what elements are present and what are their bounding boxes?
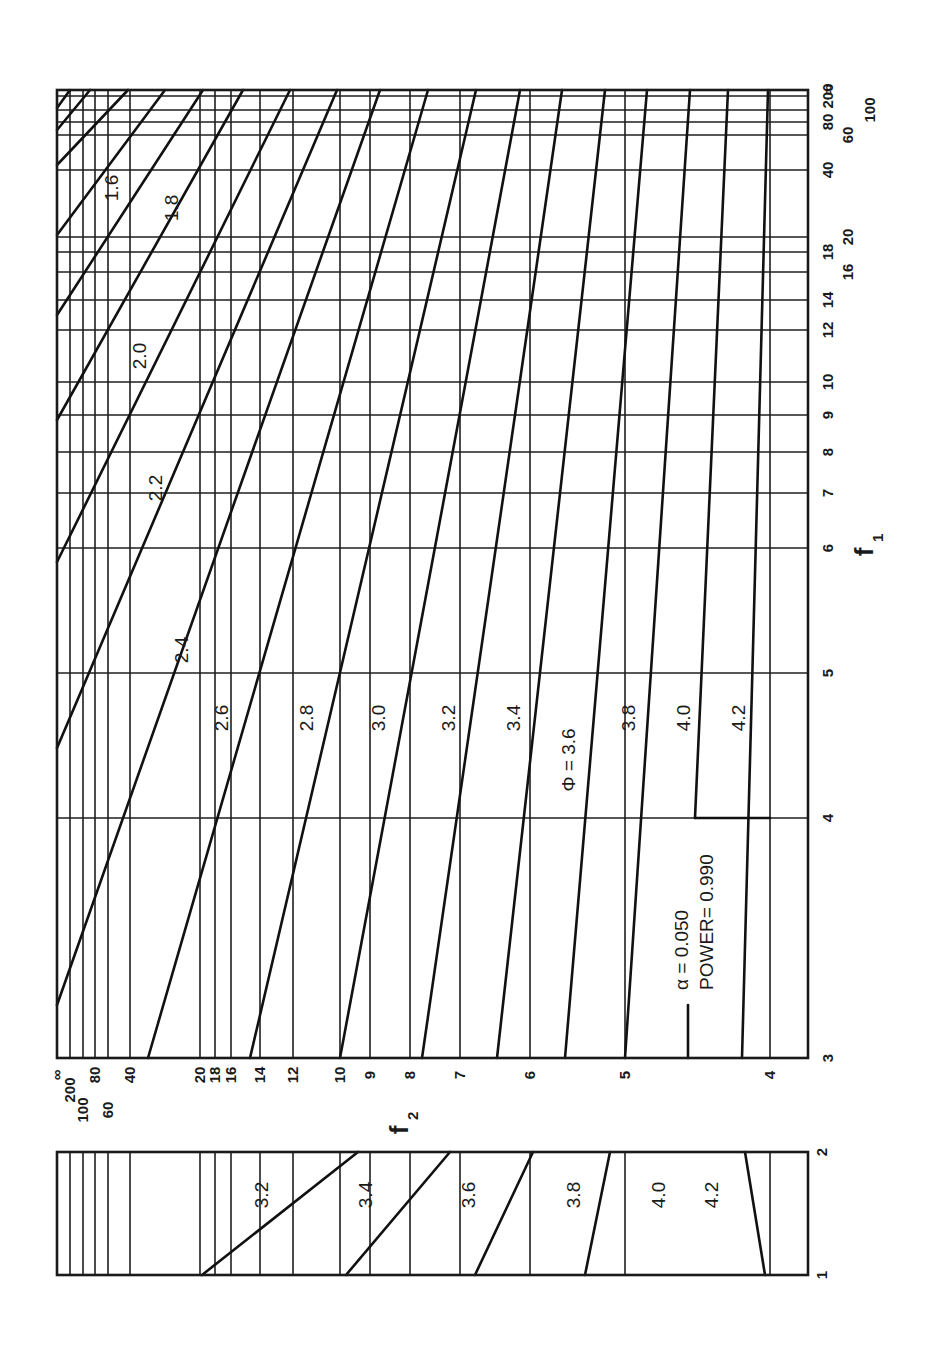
svg-text:2.0: 2.0 [129,343,150,369]
svg-text:f: f [849,547,879,556]
svg-text:4.0: 4.0 [648,1182,669,1208]
curve-label: 3.0 [368,705,389,731]
f1-tick-label: 16 [839,264,856,281]
f1-tick-label: 18 [819,244,836,261]
inset-curve-label: 3.8 [563,1182,584,1208]
f1-tick-label: 5 [819,669,836,677]
svg-text:1: 1 [869,534,886,542]
svg-text:3: 3 [819,1054,836,1062]
svg-text:3.4: 3.4 [355,1181,376,1208]
f1-tick-label: 60 [839,127,856,144]
f2-tick-label: 14 [251,1066,268,1083]
svg-text:α = 0.050: α = 0.050 [671,910,692,990]
curve-label: 2.4 [171,636,192,663]
f2-tick-label: 5 [616,1071,633,1079]
svg-text:4.2: 4.2 [701,1182,722,1208]
main-curve-2.6 [57,90,337,748]
svg-text:8: 8 [819,448,836,456]
svg-text:2.8: 2.8 [296,705,317,731]
svg-text:18: 18 [206,1067,223,1084]
curve-label: 2.0 [129,343,150,369]
svg-text:f: f [384,1125,414,1134]
f1-tick-label: 9 [819,411,836,419]
main-curve-2.4 [57,90,290,562]
svg-text:2: 2 [404,1112,421,1120]
svg-text:3.2: 3.2 [251,1182,272,1208]
svg-text:2: 2 [813,1148,830,1156]
svg-text:3.8: 3.8 [563,1182,584,1208]
curve-label: Φ = 3.6 [558,728,579,791]
svg-text:16: 16 [839,264,856,281]
main-curve-4.4 [695,90,728,818]
svg-text:40: 40 [819,162,836,179]
inset-curve-label: 4.2 [701,1182,722,1208]
svg-text:60: 60 [839,127,856,144]
svg-text:7: 7 [451,1071,468,1079]
svg-text:9: 9 [361,1071,378,1079]
svg-text:Φ = 3.6: Φ = 3.6 [558,728,579,791]
inset-curve-3.2 [202,1152,358,1275]
svg-text:4.2: 4.2 [728,705,749,731]
inset-curve-3.4 [346,1152,450,1275]
phi-curves [57,90,770,1275]
svg-text:2.4: 2.4 [171,636,192,663]
curve-label: 3.4 [503,704,524,731]
f2-tick-label: 8 [401,1071,418,1079]
svg-text:20: 20 [839,229,856,246]
svg-text:7: 7 [819,489,836,497]
inset-curve-label: 3.2 [251,1182,272,1208]
curve-label: 2.8 [296,705,317,731]
curve-label: 1.6 [101,175,122,201]
f2-tick-label: 80 [86,1067,103,1084]
f2-tick-label: 6 [521,1071,538,1079]
svg-text:10: 10 [819,374,836,391]
f1-tick-label: 40 [819,162,836,179]
svg-text:100: 100 [861,97,878,122]
f1-tick-label: 4 [819,813,836,822]
f1-tick-label: 12 [819,322,836,339]
curve-label: 4.0 [673,705,694,731]
inset-curve-label: 3.6 [458,1182,479,1208]
f2-axis-title: f 2 [384,1112,421,1135]
f1-tick-label: 80 [819,114,836,131]
svg-text:3.4: 3.4 [503,704,524,731]
chart-canvas: 3456789101214161820406080100200∞∞2001008… [0,0,930,1345]
svg-text:4: 4 [819,813,836,822]
f1-axis-title: f 1 [849,534,886,557]
svg-text:9: 9 [819,411,836,419]
svg-text:60: 60 [99,1102,116,1119]
svg-text:6: 6 [819,544,836,552]
inset-f1-tick-label: 2 [813,1148,830,1156]
f2-tick-label: 40 [121,1067,138,1084]
svg-text:5: 5 [616,1071,633,1079]
svg-text:3.6: 3.6 [458,1182,479,1208]
inset-panel-frame [57,1152,808,1275]
svg-text:1: 1 [813,1271,830,1279]
f2-tick-label: 16 [222,1067,239,1084]
main-curve-3.8 [497,90,605,1058]
svg-text:3.2: 3.2 [438,705,459,731]
f2-tick-label: 12 [284,1067,301,1084]
svg-text:∞: ∞ [819,84,836,95]
power-label: POWER= 0.990 [696,854,717,990]
alpha-label: α = 0.050 [671,910,692,990]
f2-tick-label: 4 [761,1070,778,1079]
curve-label: 4.2 [728,705,749,731]
svg-text:3.8: 3.8 [618,705,639,731]
svg-text:3.0: 3.0 [368,705,389,731]
f1-tick-label: 10 [819,374,836,391]
svg-text:1.6: 1.6 [101,175,122,201]
main-curve-1.6 [57,90,70,108]
curve-label: 3.8 [618,705,639,731]
curve-label: 1.8 [161,195,182,221]
svg-text:18: 18 [819,244,836,261]
inset-curve-3.8 [585,1152,610,1275]
main-curve-4.6 [742,90,768,1058]
svg-text:80: 80 [819,114,836,131]
power-function-chart: 3456789101214161820406080100200∞∞2001008… [0,0,930,1345]
inset-curve-label: 3.4 [355,1181,376,1208]
inset-f1-tick-label: 1 [813,1271,830,1279]
inset-curve-3.6 [475,1152,533,1275]
f2-tick-label: 100 [74,1097,91,1122]
svg-text:6: 6 [521,1071,538,1079]
